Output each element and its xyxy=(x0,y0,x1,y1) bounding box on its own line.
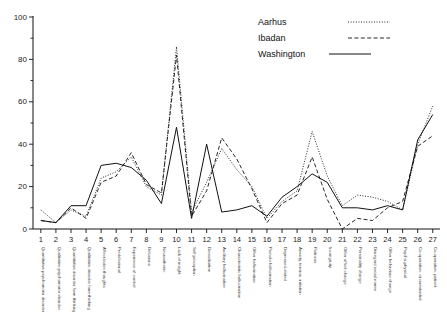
x-tick-number: 16 xyxy=(263,235,271,244)
x-tick-number: 2 xyxy=(54,235,58,244)
x-category-label: Quantitative disorder form thinking xyxy=(72,247,77,313)
x-category-label: Qualitative psychomotor disorder xyxy=(57,247,62,310)
x-category-label: Lack of insight xyxy=(177,247,182,275)
x-category-label: Experience of control xyxy=(132,247,137,287)
x-category-label: Predelusional xyxy=(117,247,122,273)
x-category-label: Psycho-physical xyxy=(403,247,408,278)
y-tick-label: 0 xyxy=(23,225,28,234)
y-tick-label: 100 xyxy=(14,13,28,22)
legend: AarhusIbadanWashington xyxy=(258,17,390,59)
x-category-label: Qualitative disorder form thinking xyxy=(87,247,92,310)
x-category-label: Characteristic hallucination xyxy=(237,247,242,299)
series-group xyxy=(41,47,433,229)
x-tick-number: 24 xyxy=(383,235,391,244)
x-tick-number: 23 xyxy=(368,235,376,244)
x-category-label: Co-operation, circumstantial xyxy=(418,247,423,301)
chart-container: 0204060801001Quantitative psychomotor di… xyxy=(0,0,447,331)
y-tick-label: 40 xyxy=(18,140,27,149)
series-line-ibadan xyxy=(41,55,433,229)
x-tick-number: 26 xyxy=(414,235,422,244)
x-category-label: Pseudo hallucination xyxy=(268,247,273,287)
x-category-label: Anxiety, tension, irritation xyxy=(298,247,303,295)
x-tick-number: 4 xyxy=(84,235,88,244)
x-tick-number: 18 xyxy=(293,235,301,244)
x-tick-number: 13 xyxy=(218,235,226,244)
x-tick-number: 14 xyxy=(233,235,241,244)
x-category-label: Neurasthenic xyxy=(162,247,167,273)
x-category-label: Quantitative psychomotor disorder xyxy=(41,247,46,313)
x-tick-number: 25 xyxy=(398,235,406,244)
x-category-label: Other hallucination xyxy=(252,247,257,283)
legend-label-ibadan: Ibadan xyxy=(258,33,286,43)
series-line-washington xyxy=(41,115,433,223)
x-category-label: Derealisation xyxy=(207,247,212,273)
x-category-label: Auditory hallucination xyxy=(222,247,227,288)
x-tick-number: 22 xyxy=(353,235,361,244)
x-tick-number: 17 xyxy=(278,235,286,244)
x-tick-number: 6 xyxy=(114,235,118,244)
x-tick-number: 12 xyxy=(202,235,210,244)
x-tick-number: 21 xyxy=(338,235,346,244)
y-tick-label: 20 xyxy=(18,182,27,191)
x-category-label: Co-operation, patient xyxy=(433,247,438,288)
x-tick-number: 19 xyxy=(308,235,316,244)
x-category-label: Incongruity xyxy=(328,247,333,269)
y-tick-label: 80 xyxy=(18,55,27,64)
x-category-label: Personality change xyxy=(358,247,363,284)
x-category-label: Disregard social norms xyxy=(373,247,378,291)
x-tick-number: 27 xyxy=(429,235,437,244)
x-category-label: Self perception xyxy=(192,247,197,276)
x-category-label: Depressed-elated xyxy=(283,247,288,282)
x-tick-number: 7 xyxy=(129,235,133,244)
x-tick-number: 15 xyxy=(248,235,256,244)
x-tick-number: 1 xyxy=(39,235,43,244)
x-tick-number: 10 xyxy=(172,235,180,244)
x-tick-number: 8 xyxy=(144,235,148,244)
x-category-label: Delusions xyxy=(147,247,152,266)
legend-label-aarhus: Aarhus xyxy=(258,17,287,27)
x-tick-number: 20 xyxy=(323,235,331,244)
legend-label-washington: Washington xyxy=(258,49,305,59)
axes-group: 0204060801001Quantitative psychomotor di… xyxy=(14,13,440,313)
x-category-label: Affect-laden thoughts xyxy=(102,247,107,288)
x-category-label: Other behaviour change xyxy=(388,247,393,294)
x-tick-number: 11 xyxy=(188,235,196,244)
x-category-label: Other affect change xyxy=(343,247,348,285)
y-tick-label: 60 xyxy=(18,97,27,106)
x-tick-number: 3 xyxy=(69,235,73,244)
line-chart: 0204060801001Quantitative psychomotor di… xyxy=(0,0,447,331)
x-tick-number: 9 xyxy=(159,235,163,244)
x-tick-number: 5 xyxy=(99,235,103,244)
x-category-label: Flatness xyxy=(313,247,318,263)
series-line-aarhus xyxy=(41,47,433,223)
